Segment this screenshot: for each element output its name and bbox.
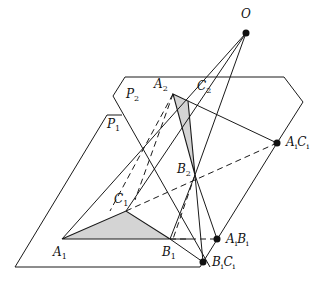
ray-oa — [62, 33, 246, 239]
label-p1: P1 — [107, 118, 120, 133]
triangle-1-fill — [62, 211, 170, 239]
label-b1: B1 — [162, 246, 176, 261]
plane-p1-outline — [15, 115, 200, 267]
desargues-diagram: O P2 P1 A2 C2 B2 C1 A1 B1 AiCi AiBi BiCi — [0, 0, 321, 282]
dash-a2-c1 — [135, 94, 173, 200]
point-bici-dot — [200, 259, 207, 266]
label-p2: P2 — [126, 88, 139, 103]
label-a1: A1 — [53, 246, 67, 261]
label-aici: AiCi — [286, 136, 309, 151]
line-c2-aici — [188, 101, 277, 143]
plane-intersection-line — [200, 143, 277, 267]
label-a2: A2 — [154, 78, 168, 93]
label-c2: C2 — [197, 80, 211, 95]
point-aici-dot — [274, 140, 281, 147]
label-b2: B2 — [177, 163, 191, 178]
diagram-lines — [0, 0, 321, 282]
label-bici: BiCi — [212, 256, 235, 271]
point-aibi-dot — [214, 236, 221, 243]
label-o: O — [241, 8, 251, 20]
ray-ob — [195, 33, 246, 175]
point-o-dot — [243, 30, 250, 37]
label-aibi: AiBi — [226, 233, 249, 248]
label-c1: C1 — [114, 193, 128, 208]
